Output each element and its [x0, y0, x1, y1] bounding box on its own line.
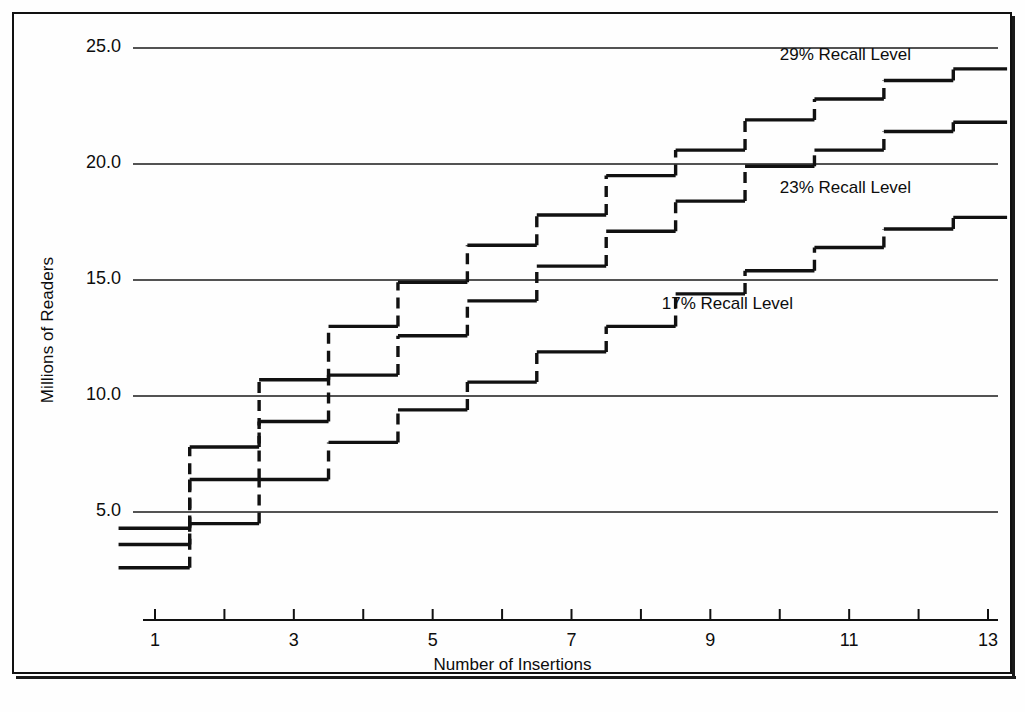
series-3 — [119, 217, 1008, 567]
series-group — [119, 69, 1008, 568]
series-label-2: 23% Recall Level — [780, 178, 911, 198]
x-tick-label-9: 9 — [690, 630, 730, 651]
gridlines-group — [133, 48, 998, 512]
y-axis-title-wrap: Millions of Readers — [10, 180, 50, 500]
x-tick-label-13: 13 — [968, 630, 1008, 651]
x-tick-label-7: 7 — [552, 630, 592, 651]
y-tick-label-25.0: 25.0 — [51, 36, 121, 57]
y-axis-title: Millions of Readers — [38, 180, 58, 480]
y-tick-label-10.0: 10.0 — [51, 384, 121, 405]
y-tick-label-5.0: 5.0 — [51, 500, 121, 521]
x-tick-label-5: 5 — [413, 630, 453, 651]
x-tick-label-1: 1 — [135, 630, 175, 651]
series-label-1: 29% Recall Level — [780, 45, 911, 65]
x-axis-title: Number of Insertions — [0, 655, 1025, 675]
figure-root: 5.010.015.020.025.0 135791113 29% Recall… — [0, 0, 1025, 712]
x-tick-label-3: 3 — [274, 630, 314, 651]
y-tick-label-20.0: 20.0 — [51, 152, 121, 173]
x-tick-label-11: 11 — [829, 630, 869, 651]
x-axis-group — [143, 609, 998, 620]
y-tick-label-15.0: 15.0 — [51, 268, 121, 289]
chart-canvas — [0, 0, 1025, 712]
series-label-3: 17% Recall Level — [662, 294, 793, 314]
series-1 — [119, 69, 1008, 528]
